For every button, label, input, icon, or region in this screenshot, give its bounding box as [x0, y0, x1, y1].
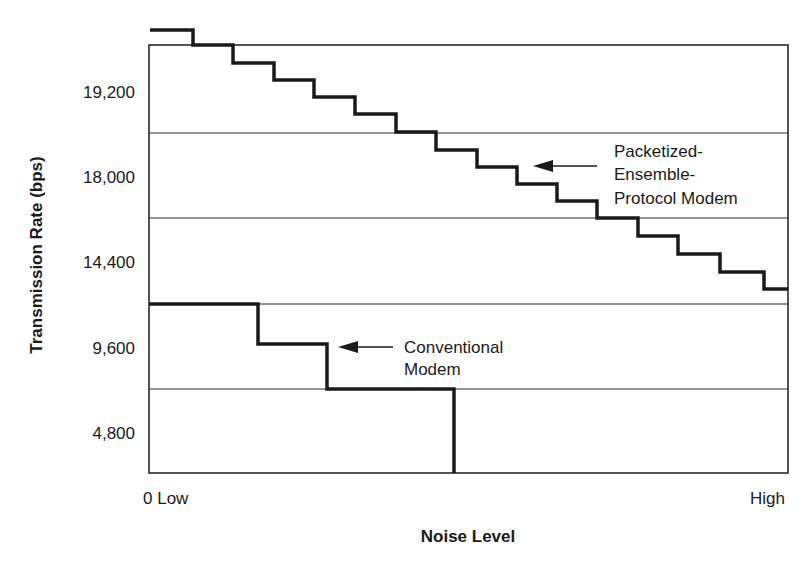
arrowhead-icon — [533, 160, 553, 172]
y-axis-label: Transmission Rate (bps) — [27, 156, 46, 353]
arrow-pep — [533, 160, 597, 172]
x-tick-low: 0 Low — [143, 489, 189, 508]
annotation-pep: Packetized- Ensemble- Protocol Modem — [614, 142, 738, 208]
annotation-line: Packetized- — [614, 142, 703, 161]
annotation-line: Protocol Modem — [614, 189, 738, 208]
arrow-conventional — [338, 341, 393, 353]
arrowhead-icon — [338, 341, 358, 353]
y-tick: 4,800 — [92, 424, 135, 443]
x-axis-label: Noise Level — [421, 527, 516, 546]
y-tick: 9,600 — [92, 339, 135, 358]
annotation-conventional: Conventional Modem — [404, 338, 503, 379]
plot-frame — [149, 45, 788, 473]
x-tick-high: High — [750, 489, 785, 508]
annotation-line: Modem — [404, 360, 461, 379]
annotation-line: Ensemble- — [614, 165, 695, 184]
step-chart: 19,200 18,000 14,400 9,600 4,800 Transmi… — [0, 0, 808, 566]
annotation-line: Conventional — [404, 338, 503, 357]
y-tick: 19,200 — [83, 83, 135, 102]
y-tick: 18,000 — [83, 168, 135, 187]
y-tick: 14,400 — [83, 253, 135, 272]
y-tick-labels: 19,200 18,000 14,400 9,600 4,800 — [83, 83, 135, 443]
